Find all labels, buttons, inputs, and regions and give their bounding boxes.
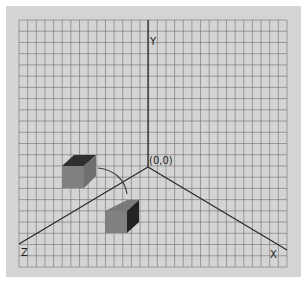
x-axis-label: X [270,249,277,260]
box-before [62,155,96,188]
origin-label: (0,0) [149,155,173,166]
grid [19,20,287,267]
box-after [105,200,139,233]
y-axis-label: Y [149,36,157,47]
x-axis [148,167,287,250]
z-axis-label: Z [21,247,28,258]
box-after-front [105,211,127,233]
box-before-front [62,166,84,188]
coordinate-diagram: Y X Z (0,0) [0,0,307,288]
